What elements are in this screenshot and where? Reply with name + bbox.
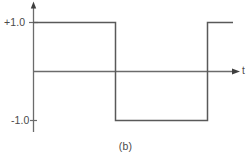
y-axis-arrowhead: [31, 2, 36, 9]
waveform-plot: [0, 0, 251, 160]
x-axis-arrowhead: [232, 69, 240, 75]
figure-caption: (b): [0, 140, 251, 152]
y-axis-tick-label-minus-one: -1.0: [11, 114, 30, 126]
y-axis-tick-label-plus-one: +1.0: [4, 16, 25, 28]
x-axis-label: t: [242, 65, 245, 76]
square-wave-figure: +1.0 -1.0 t (b): [0, 0, 251, 160]
